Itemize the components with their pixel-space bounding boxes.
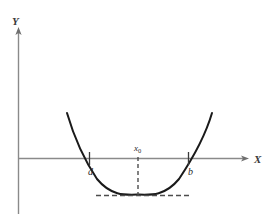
- vertex-label-subscript: 0: [138, 147, 141, 154]
- y-axis-label: Y: [12, 15, 20, 27]
- diagram-canvas: Y X d b x0: [0, 0, 272, 224]
- vertex-label: x0: [133, 143, 141, 154]
- right-root-label: b: [188, 166, 193, 177]
- parabola-diagram: Y X d b x0: [0, 0, 272, 224]
- x-axis-label: X: [253, 153, 262, 165]
